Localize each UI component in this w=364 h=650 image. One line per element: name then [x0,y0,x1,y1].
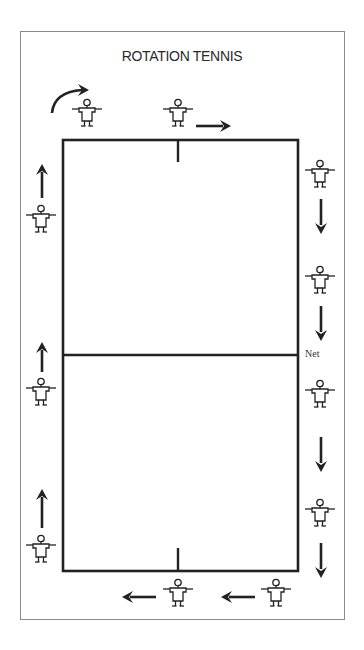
arrow-up-icon [36,342,48,372]
player-right-1 [305,160,335,187]
arrow-down-icon [315,437,327,472]
player-left-2 [26,378,56,405]
player-bottom-right [261,579,291,606]
net-label: Net [305,348,319,359]
arrow-up-icon [36,164,48,198]
rotation-arrows [36,84,327,603]
arrow-left-icon [122,591,156,603]
arrow-up-icon [36,489,48,528]
player-top-center [163,99,193,126]
arrow-left-icon [221,591,255,603]
player-left-1 [26,535,56,562]
arrow-down-icon [315,543,327,578]
players [26,99,335,606]
arrow-right-icon [196,120,231,132]
arrow-down-icon [315,199,327,234]
player-left-3 [26,205,56,232]
court [63,140,298,571]
arrow-down-icon [315,306,327,341]
rotation-diagram [0,0,364,650]
player-right-3 [305,380,335,407]
player-right-2 [305,266,335,293]
player-top-left [72,99,102,126]
player-right-4 [305,499,335,526]
player-bottom-center [163,579,193,606]
